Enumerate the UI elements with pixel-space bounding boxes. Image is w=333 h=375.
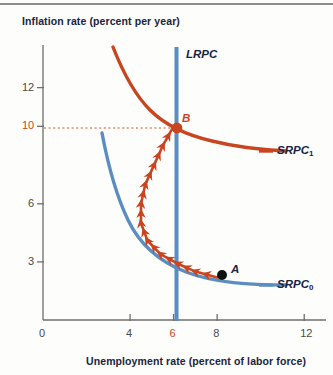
- srpc0-label-text: SRPC: [277, 278, 309, 290]
- adjustment-arrowhead: [152, 149, 165, 162]
- plot-area: [0, 0, 333, 375]
- srpc0-label: SRPC0: [277, 278, 313, 292]
- srpc1-label-text: SRPC: [277, 144, 309, 156]
- adjustment-path-spine: [141, 126, 217, 277]
- adjustment-arrowhead: [138, 226, 150, 238]
- y-tick-label-3: 3: [28, 255, 34, 267]
- srpc0-label-subscript: 0: [309, 283, 313, 292]
- point-b-label: B: [182, 112, 190, 124]
- data-point-b: [172, 123, 183, 134]
- adjustment-arrowhead: [162, 129, 175, 142]
- y-tick-label-6: 6: [28, 197, 34, 209]
- srpc1-label-subscript: 1: [309, 149, 313, 158]
- x-tick-label-6: 6: [170, 327, 176, 339]
- adjustment-arrowhead: [143, 168, 156, 181]
- x-tick-label-12: 12: [300, 327, 312, 339]
- srpc0-curve: [102, 133, 286, 285]
- adjustment-arrowhead: [156, 139, 169, 152]
- x-tick-label-4: 4: [126, 327, 132, 339]
- lrpc-label-text: LRPC: [186, 48, 217, 60]
- point-a-label: A: [231, 263, 239, 275]
- y-tick-label-12: 12: [22, 81, 34, 93]
- x-tick-label-0: 0: [39, 327, 45, 339]
- srpc1-curve: [113, 47, 286, 151]
- lrpc-label: LRPC: [186, 48, 217, 60]
- srpc1-label: SRPC1: [277, 144, 313, 158]
- y-tick-label-10: 10: [22, 119, 34, 131]
- data-point-a: [217, 270, 227, 280]
- phillips-curve-figure: Inflation rate (percent per year) Unempl…: [0, 0, 333, 375]
- x-tick-label-8: 8: [213, 327, 219, 339]
- adjustment-arrowhead: [148, 159, 161, 172]
